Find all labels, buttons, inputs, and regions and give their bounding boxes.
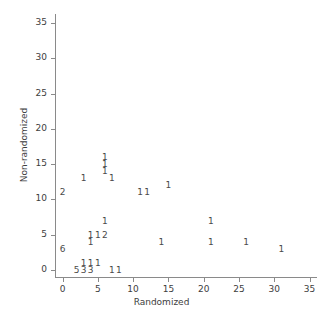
data-point-marker: 1: [86, 237, 96, 247]
data-point-marker: 6: [58, 244, 68, 254]
x-tick-label: 25: [227, 284, 251, 294]
x-tick-mark: [310, 278, 311, 282]
y-axis-title: Non-randomized: [19, 65, 29, 225]
data-point-marker: 2: [100, 230, 110, 240]
scatter-plot-figure: 05101520253035 05101520253035 2111111111…: [0, 0, 323, 318]
data-point-marker: 1: [241, 237, 251, 247]
data-point-marker: 1: [276, 244, 286, 254]
y-tick-label: 30: [23, 52, 47, 62]
y-axis-line: [55, 14, 56, 278]
y-tick-mark: [51, 164, 55, 165]
data-point-marker: 1: [114, 265, 124, 275]
y-tick-mark: [51, 199, 55, 200]
data-point-marker: 1: [142, 187, 152, 197]
y-tick-mark: [51, 270, 55, 271]
x-tick-label: 20: [192, 284, 216, 294]
y-tick-mark: [51, 23, 55, 24]
data-point-marker: 1: [206, 216, 216, 226]
x-tick-mark: [239, 278, 240, 282]
x-tick-mark: [63, 278, 64, 282]
x-tick-mark: [204, 278, 205, 282]
x-tick-label: 15: [156, 284, 180, 294]
x-tick-label: 5: [86, 284, 110, 294]
data-point-marker: 3: [86, 265, 96, 275]
data-point-marker: 1: [107, 173, 117, 183]
data-point-marker: 1: [163, 180, 173, 190]
x-tick-mark: [168, 278, 169, 282]
y-tick-mark: [51, 235, 55, 236]
y-tick-label: 35: [23, 17, 47, 27]
data-point-marker: 1: [206, 237, 216, 247]
data-point-marker: 2: [58, 187, 68, 197]
y-tick-label: 0: [23, 264, 47, 274]
y-tick-mark: [51, 94, 55, 95]
plot-area: 05101520253035 05101520253035 2111111111…: [0, 0, 323, 318]
data-point-marker: 1: [100, 216, 110, 226]
x-tick-label: 0: [51, 284, 75, 294]
x-tick-label: 10: [121, 284, 145, 294]
x-axis-line: [55, 277, 317, 278]
y-tick-mark: [51, 129, 55, 130]
y-tick-mark: [51, 58, 55, 59]
data-point-marker: 1: [79, 173, 89, 183]
data-point-marker: 1: [156, 237, 166, 247]
y-tick-label: 5: [23, 229, 47, 239]
x-tick-mark: [133, 278, 134, 282]
x-tick-label: 35: [298, 284, 322, 294]
x-tick-mark: [98, 278, 99, 282]
x-tick-label: 30: [262, 284, 286, 294]
x-tick-mark: [274, 278, 275, 282]
x-axis-title: Randomized: [0, 297, 323, 307]
